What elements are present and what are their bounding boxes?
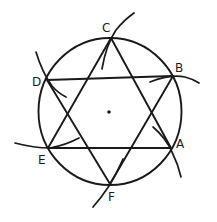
- triangle-bdf: [47, 76, 173, 184]
- triangle-ace: [48, 38, 171, 148]
- construction-arc-a: [153, 127, 181, 177]
- vertex-label-e: E: [38, 153, 46, 167]
- vertex-label-c: C: [102, 21, 110, 35]
- vertex-label-b: B: [175, 61, 183, 75]
- vertex-label-f: F: [108, 190, 115, 204]
- vertex-label-d: D: [32, 75, 41, 89]
- center-point: [107, 110, 111, 114]
- hexagram-construction-diagram: C B A F E D: [0, 0, 217, 222]
- vertex-label-a: A: [176, 137, 185, 151]
